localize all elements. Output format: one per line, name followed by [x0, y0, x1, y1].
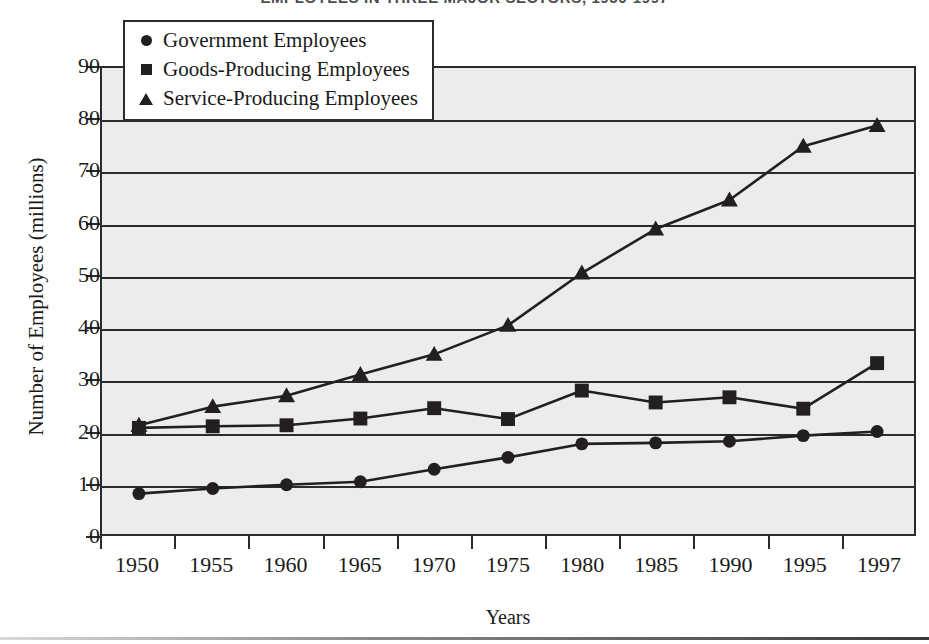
x-tick-label: 1965 — [320, 552, 400, 578]
data-point — [280, 418, 294, 432]
y-tick-label: 30 — [54, 368, 100, 390]
legend-item-label: Service-Producing Employees — [163, 88, 418, 109]
legend-item: Government Employees — [135, 26, 418, 55]
data-point — [206, 482, 219, 495]
x-tick-mark — [174, 536, 176, 549]
y-tick-label: 20 — [54, 421, 100, 443]
series-triangle — [130, 117, 885, 432]
data-point — [649, 396, 663, 410]
legend-item: Service-Producing Employees — [135, 84, 418, 113]
x-tick-label: 1960 — [245, 552, 325, 578]
series-square — [132, 356, 884, 435]
data-point — [796, 402, 810, 416]
circle-glyph — [141, 35, 152, 46]
data-point — [280, 478, 293, 491]
x-axis-title: Years — [100, 606, 916, 629]
x-tick-label: 1997 — [839, 552, 919, 578]
data-point — [575, 437, 588, 450]
y-tick-label: 50 — [54, 264, 100, 286]
data-point — [649, 436, 662, 449]
legend-item: Goods-Producing Employees — [135, 55, 418, 84]
page-bottom-rule — [0, 637, 929, 640]
series-lines — [102, 68, 914, 534]
data-point — [500, 317, 517, 332]
data-point — [354, 475, 367, 488]
legend-item-label: Government Employees — [163, 30, 367, 51]
data-point — [353, 412, 367, 426]
y-tick-label: 60 — [54, 212, 100, 234]
y-tick-label: 10 — [54, 473, 100, 495]
square-glyph — [141, 64, 152, 75]
chart-title: EMPLOYEES IN THREE MAJOR SECTORS, 1950-1… — [0, 0, 929, 8]
data-point — [721, 192, 738, 207]
chart-legend: Government EmployeesGoods-Producing Empl… — [123, 20, 434, 121]
triangle-glyph — [139, 93, 153, 105]
x-tick-label: 1950 — [97, 552, 177, 578]
x-tick-mark — [768, 536, 770, 549]
x-tick-label: 1985 — [616, 552, 696, 578]
data-point — [870, 356, 884, 370]
x-tick-label: 1975 — [468, 552, 548, 578]
data-point — [573, 265, 590, 280]
x-tick-mark — [100, 536, 102, 549]
x-tick-mark — [545, 536, 547, 549]
data-point — [871, 425, 884, 438]
legend-item-label: Goods-Producing Employees — [163, 59, 410, 80]
x-tick-mark — [323, 536, 325, 549]
square-marker-icon — [135, 64, 157, 75]
data-point — [575, 384, 589, 398]
x-tick-label: 1955 — [171, 552, 251, 578]
data-point — [502, 451, 515, 464]
x-tick-label: 1995 — [765, 552, 845, 578]
data-point — [797, 429, 810, 442]
data-point — [501, 412, 515, 426]
x-tick-mark — [693, 536, 695, 549]
x-tick-mark — [397, 536, 399, 549]
x-tick-label: 1990 — [691, 552, 771, 578]
chart-figure: EMPLOYEES IN THREE MAJOR SECTORS, 1950-1… — [0, 0, 929, 644]
circle-marker-icon — [135, 35, 157, 46]
y-tick-label: 40 — [54, 316, 100, 338]
x-tick-mark — [619, 536, 621, 549]
x-tick-label: 1970 — [394, 552, 474, 578]
data-point — [869, 117, 886, 132]
y-tick-label: 90 — [54, 55, 100, 77]
data-point — [427, 401, 441, 415]
data-point — [723, 435, 736, 448]
y-tick-label: 0 — [54, 525, 100, 547]
x-tick-mark — [842, 536, 844, 549]
data-point — [206, 419, 220, 433]
y-axis-ticks: 0102030405060708090 — [34, 66, 100, 536]
y-tick-label: 70 — [54, 159, 100, 181]
x-axis-ticks: 1950195519601965197019751980198519901995… — [100, 536, 916, 598]
data-point — [428, 463, 441, 476]
triangle-marker-icon — [135, 93, 157, 105]
series-circle — [132, 425, 883, 500]
x-tick-label: 1980 — [542, 552, 622, 578]
y-tick-label: 80 — [54, 107, 100, 129]
data-point — [132, 487, 145, 500]
plot-area — [100, 66, 916, 536]
series-line — [139, 125, 877, 425]
x-tick-mark — [471, 536, 473, 549]
data-point — [722, 390, 736, 404]
x-tick-mark — [248, 536, 250, 549]
